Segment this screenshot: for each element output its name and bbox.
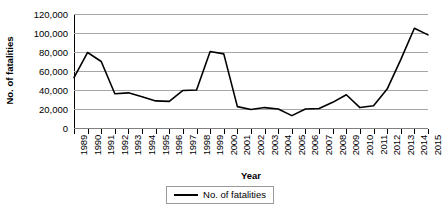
y-axis-tick-labels: 020,00040,00060,00080,000100,000120,000 <box>16 14 72 128</box>
y-axis-tick-label: 120,000 <box>34 9 68 20</box>
x-axis-tick-mark <box>278 129 279 134</box>
x-axis-tick-mark <box>88 129 89 134</box>
x-axis-tick-mark <box>128 129 129 134</box>
x-axis-tick-label: 2008 <box>337 135 348 155</box>
x-axis-tick-label: 2012 <box>391 135 402 155</box>
x-axis-tick-label: 2010 <box>364 135 375 155</box>
x-axis-tick-label: 1993 <box>132 135 143 155</box>
x-axis-tick-label: 2000 <box>228 135 239 155</box>
x-axis-tick-label: 2011 <box>378 135 389 155</box>
x-axis-tick-label: 2002 <box>255 135 266 155</box>
y-axis-tick-label: 80,000 <box>39 47 68 58</box>
x-axis-tick-mark <box>237 129 238 134</box>
x-axis-tick-label: 2009 <box>350 135 361 155</box>
x-axis-tick-mark <box>414 129 415 134</box>
x-axis-tick-label: 1999 <box>214 135 225 155</box>
x-axis-tick-mark <box>115 129 116 134</box>
x-axis-tick-mark <box>305 129 306 134</box>
x-axis-tick-label: 2013 <box>405 135 416 155</box>
x-axis-tick-label: 1997 <box>187 135 198 155</box>
x-axis-tick-mark <box>387 129 388 134</box>
x-axis-tick-mark <box>74 129 75 134</box>
x-axis-tick-label: 1998 <box>201 135 212 155</box>
x-axis-tick-label: 1992 <box>119 135 130 155</box>
y-axis-tick-label: 60,000 <box>39 66 68 77</box>
y-axis-tick-label: 100,000 <box>34 28 68 39</box>
legend-box: No. of fatalities <box>166 186 274 204</box>
x-axis-tick-label: 2003 <box>269 135 280 155</box>
x-axis-tick-labels: 1989199019911992199319941995199619971998… <box>74 135 428 169</box>
x-axis-tick-label: 2006 <box>309 135 320 155</box>
x-axis-tick-label: 1991 <box>105 135 116 155</box>
x-axis-tick-label: 2005 <box>296 135 307 155</box>
x-axis-tick-mark <box>360 129 361 134</box>
x-axis-tick-label: 2007 <box>323 135 334 155</box>
x-axis-tick-mark <box>210 129 211 134</box>
x-axis-tick-mark <box>401 129 402 134</box>
x-axis-tick-mark <box>183 129 184 134</box>
y-axis-tick-label: 0 <box>63 123 68 134</box>
x-axis-tick-label: 1994 <box>146 135 157 155</box>
y-axis-tick-label: 20,000 <box>39 104 68 115</box>
x-axis-tick-mark <box>333 129 334 134</box>
x-axis-tick-label: 1995 <box>160 135 171 155</box>
x-axis-tick-mark <box>374 129 375 134</box>
y-axis-title-text: No. of fatalities <box>4 36 15 104</box>
x-axis-tick-mark <box>156 129 157 134</box>
x-axis-tick-mark <box>292 129 293 134</box>
x-axis-title: Year <box>74 170 428 181</box>
x-axis-tick-label: 2014 <box>418 135 429 155</box>
x-axis-tick-mark <box>251 129 252 134</box>
x-axis-tick-mark <box>224 129 225 134</box>
x-axis-tick-label: 2001 <box>241 135 252 155</box>
x-axis-tick-marks <box>74 129 428 134</box>
x-axis-tick-label: 1989 <box>78 135 89 155</box>
plot-area <box>74 14 428 128</box>
chart-legend: No. of fatalities <box>0 186 440 204</box>
y-axis-tick-label: 40,000 <box>39 85 68 96</box>
x-axis-tick-mark <box>346 129 347 134</box>
x-axis-tick-label: 2004 <box>282 135 293 155</box>
x-axis-tick-mark <box>101 129 102 134</box>
x-axis-tick-label: 1996 <box>173 135 184 155</box>
x-axis-tick-label: 2015 <box>432 135 443 155</box>
x-axis-tick-mark <box>197 129 198 134</box>
x-axis-tick-mark <box>319 129 320 134</box>
x-axis-tick-mark <box>428 129 429 134</box>
x-axis-tick-label: 1990 <box>92 135 103 155</box>
x-axis-tick-mark <box>169 129 170 134</box>
x-axis-tick-mark <box>142 129 143 134</box>
x-axis-tick-mark <box>265 129 266 134</box>
legend-line-swatch <box>174 194 198 196</box>
legend-label: No. of fatalities <box>203 189 266 200</box>
